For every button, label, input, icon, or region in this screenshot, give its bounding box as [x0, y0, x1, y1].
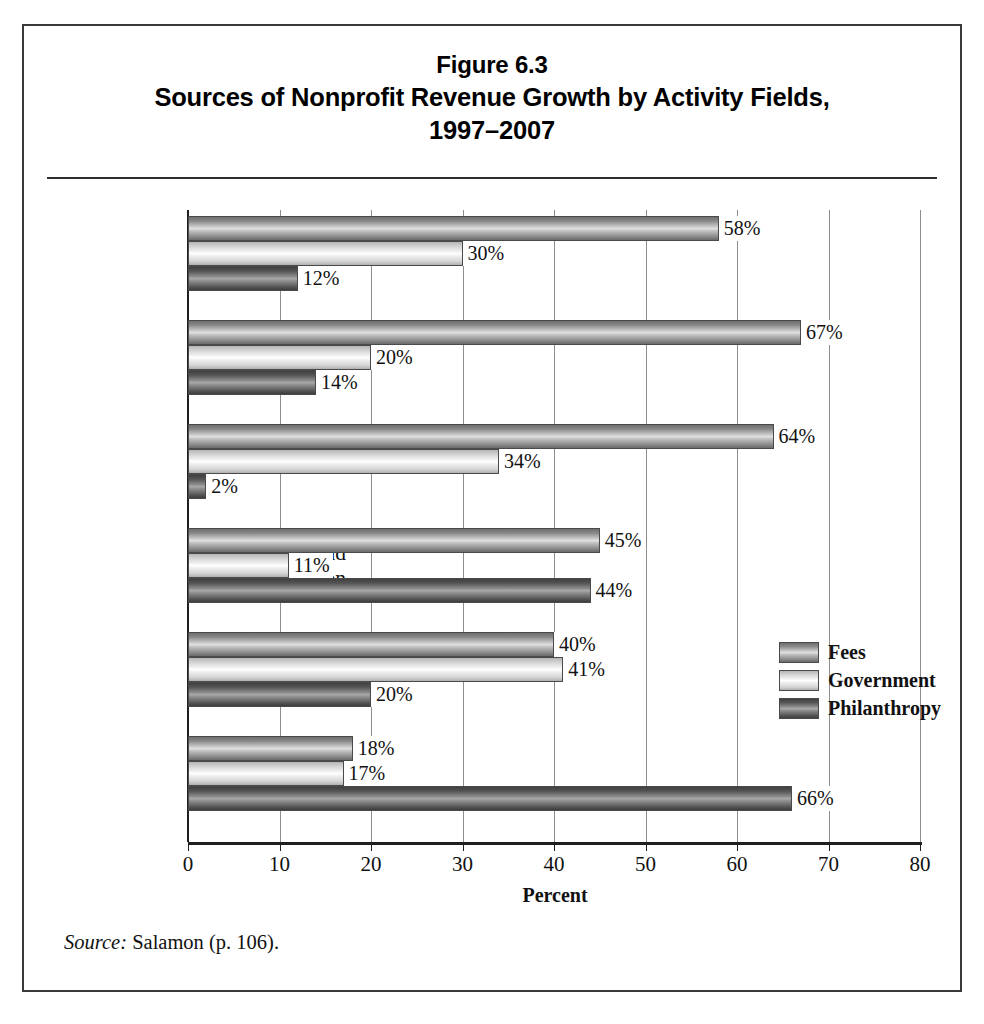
tick-label-10: 10: [250, 852, 310, 877]
tick-mark-10: [280, 842, 281, 851]
tick-mark-60: [737, 842, 738, 851]
bar-value-label: 41%: [563, 657, 608, 682]
bar-value-label: 11%: [289, 553, 333, 578]
gridline-80: [920, 210, 921, 842]
bar-value-label: 18%: [353, 736, 398, 761]
bar-value-label: 45%: [600, 528, 645, 553]
bar-fees-1: [188, 320, 801, 345]
tick-mark-80: [920, 842, 921, 851]
bar-government-3: [188, 553, 289, 578]
bar-fees-3: [188, 528, 600, 553]
figure-frame: Figure 6.3 Sources of Nonprofit Revenue …: [22, 24, 962, 992]
legend-swatch-icon: [779, 642, 819, 663]
bar-government-0: [188, 241, 463, 266]
tick-mark-50: [646, 842, 647, 851]
legend-label: Fees: [828, 641, 866, 664]
source-note: Source: Salamon (p. 106).: [64, 931, 279, 954]
title-divider: [47, 177, 937, 179]
legend-swatch-icon: [779, 698, 819, 719]
bar-value-label: 14%: [316, 370, 361, 395]
bar-value-label: 58%: [719, 216, 764, 241]
plot-area: TotalEducationand ResearchHealthCulture …: [188, 210, 920, 842]
bar-philanthropy-0: [188, 266, 298, 291]
source-label: Source:: [64, 931, 127, 953]
legend-item-government[interactable]: Government: [779, 666, 941, 694]
bar-value-label: 17%: [344, 761, 389, 786]
x-axis-title: Percent: [188, 884, 922, 907]
bar-philanthropy-1: [188, 370, 316, 395]
tick-label-0: 0: [158, 852, 218, 877]
x-axis-line: [188, 842, 922, 845]
tick-label-30: 30: [433, 852, 493, 877]
legend-label: Philanthropy: [828, 697, 941, 720]
bar-value-label: 34%: [499, 449, 544, 474]
figure-title: Figure 6.3 Sources of Nonprofit Revenue …: [24, 48, 960, 147]
bar-government-4: [188, 657, 563, 682]
bar-fees-4: [188, 632, 554, 657]
legend-label: Government: [828, 669, 936, 692]
source-citation: Salamon (p. 106).: [127, 931, 279, 953]
tick-mark-30: [463, 842, 464, 851]
legend-item-philanthropy[interactable]: Philanthropy: [779, 694, 941, 722]
legend-item-fees[interactable]: Fees: [779, 638, 941, 666]
tick-label-20: 20: [341, 852, 401, 877]
bar-value-label: 64%: [774, 424, 819, 449]
legend-swatch-icon: [779, 670, 819, 691]
bar-fees-0: [188, 216, 719, 241]
bar-value-label: 2%: [206, 474, 241, 499]
tick-mark-70: [829, 842, 830, 851]
tick-mark-20: [371, 842, 372, 851]
bar-government-2: [188, 449, 499, 474]
bar-value-label: 30%: [463, 241, 508, 266]
bar-philanthropy-2: [188, 474, 206, 499]
bar-philanthropy-4: [188, 682, 371, 707]
bar-value-label: 20%: [371, 682, 416, 707]
bar-philanthropy-3: [188, 578, 591, 603]
chart-legend: FeesGovernmentPhilanthropy: [779, 638, 941, 722]
figure-title-main: Sources of Nonprofit Revenue Growth by A…: [24, 81, 960, 114]
bar-fees-5: [188, 736, 353, 761]
tick-mark-40: [554, 842, 555, 851]
bar-value-label: 67%: [801, 320, 846, 345]
figure-title-years: 1997–2007: [24, 114, 960, 147]
tick-label-80: 80: [890, 852, 950, 877]
bar-government-1: [188, 345, 371, 370]
tick-label-60: 60: [707, 852, 767, 877]
bar-value-label: 12%: [298, 266, 343, 291]
bar-value-label: 66%: [792, 786, 837, 811]
bar-value-label: 44%: [591, 578, 636, 603]
bar-philanthropy-5: [188, 786, 792, 811]
bar-fees-2: [188, 424, 774, 449]
tick-label-40: 40: [524, 852, 584, 877]
tick-mark-0: [188, 842, 189, 851]
bar-value-label: 40%: [554, 632, 599, 657]
bar-value-label: 20%: [371, 345, 416, 370]
tick-label-70: 70: [799, 852, 859, 877]
figure-number: Figure 6.3: [24, 48, 960, 81]
bar-government-5: [188, 761, 344, 786]
tick-label-50: 50: [616, 852, 676, 877]
